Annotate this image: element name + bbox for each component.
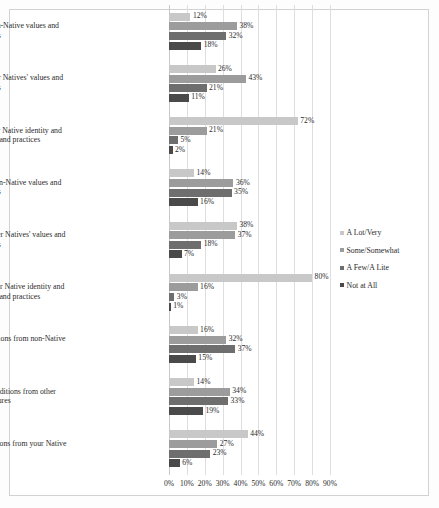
- bar-value-label: 18%: [204, 240, 218, 248]
- bar-2-7: [169, 336, 226, 344]
- bar-value-label: 32%: [229, 335, 243, 343]
- bar-value-label: 12%: [193, 12, 207, 20]
- bar-value-label: 16%: [200, 326, 214, 334]
- x-tick-label: 90%: [323, 479, 337, 489]
- bar-1-2: [169, 65, 216, 73]
- bar-value-label: 19%: [205, 407, 219, 415]
- bar-value-label: 38%: [239, 221, 253, 229]
- bar-value-label: 21%: [209, 84, 223, 92]
- bar-4-5: [169, 250, 182, 258]
- legend-label: Not at All: [347, 281, 378, 290]
- bar-1-7: [169, 326, 198, 334]
- x-tick-label: 30%: [216, 479, 230, 489]
- bar-4-2: [169, 94, 189, 102]
- bar-1-6: [169, 274, 312, 282]
- bar-2-2: [169, 75, 246, 83]
- bar-2-4: [169, 179, 233, 187]
- bar-4-8: [169, 407, 203, 415]
- bar-2-1: [169, 22, 237, 30]
- legend-item-1: A Lot/Very: [340, 228, 432, 237]
- bar-value-label: 36%: [236, 179, 250, 187]
- bar-value-label: 6%: [182, 459, 192, 467]
- plot-area: Family maintenance of non-Native values …: [169, 5, 330, 475]
- bar-4-3: [169, 146, 173, 154]
- bar-value-label: 27%: [220, 440, 234, 448]
- bar-value-label: 72%: [300, 117, 314, 125]
- legend-label: Some/Somewhat: [347, 246, 400, 255]
- category-label: Family maintenance of your Native identi…: [0, 126, 67, 145]
- category-group: Family participation in traditions from …: [169, 318, 330, 370]
- category-group: Family maintenance of your Native identi…: [169, 109, 330, 161]
- bar-4-1: [169, 42, 201, 50]
- category-label: Personal maintenance of other Natives' v…: [0, 230, 67, 249]
- bar-value-label: 18%: [204, 41, 218, 49]
- legend-swatch-icon: [340, 283, 344, 287]
- bar-2-8: [169, 388, 230, 396]
- bar-1-3: [169, 117, 298, 125]
- bar-3-6: [169, 293, 174, 301]
- bar-value-label: 33%: [231, 397, 245, 405]
- bar-2-6: [169, 283, 198, 291]
- bar-3-2: [169, 84, 207, 92]
- x-tick-label: 60%: [269, 479, 283, 489]
- bar-value-label: 2%: [175, 146, 185, 154]
- bar-3-1: [169, 32, 226, 40]
- bar-value-label: 5%: [180, 136, 190, 144]
- bar-3-4: [169, 189, 232, 197]
- bar-4-9: [169, 459, 180, 467]
- legend-item-4: Not at All: [340, 281, 432, 290]
- x-tick-label: 50%: [251, 479, 265, 489]
- bar-3-7: [169, 345, 235, 353]
- bar-value-label: 34%: [232, 387, 246, 395]
- bar-value-label: 23%: [213, 449, 227, 457]
- category-label: Family maintenance of non-Native values …: [0, 21, 67, 40]
- x-tick-label: 20%: [198, 479, 212, 489]
- category-group: Family participation in traditions from …: [169, 423, 330, 475]
- bar-value-label: 14%: [197, 169, 211, 177]
- bar-value-label: 16%: [200, 283, 214, 291]
- bar-4-7: [169, 355, 196, 363]
- category-group: Personal maintenance of your Native iden…: [169, 266, 330, 318]
- bar-value-label: 44%: [250, 430, 264, 438]
- bar-1-4: [169, 169, 194, 177]
- x-tick-label: 80%: [305, 479, 319, 489]
- bar-3-8: [169, 397, 228, 405]
- legend-item-3: A Few/A Lite: [340, 263, 432, 272]
- category-group: Family maintenance of other Natives' val…: [169, 57, 330, 109]
- bar-value-label: 80%: [315, 273, 329, 281]
- category-group: Family maintenance of non-Native values …: [169, 5, 330, 57]
- bar-value-label: 21%: [209, 126, 223, 134]
- x-tick-label: 70%: [287, 479, 301, 489]
- bar-value-label: 16%: [200, 198, 214, 206]
- chart-figure: Family maintenance of non-Native values …: [0, 0, 439, 508]
- legend-swatch-icon: [340, 248, 344, 252]
- bar-value-label: 26%: [218, 65, 232, 73]
- legend-swatch-icon: [340, 266, 344, 270]
- category-group: Personal maintenance of non-Native value…: [169, 162, 330, 214]
- legend-label: A Few/A Lite: [347, 263, 389, 272]
- bar-4-4: [169, 198, 198, 206]
- legend-label: A Lot/Very: [347, 228, 382, 237]
- x-tick-label: 10%: [180, 479, 194, 489]
- category-label: Personal maintenance of non-Native value…: [0, 178, 67, 197]
- bar-2-5: [169, 231, 235, 239]
- bar-3-5: [169, 241, 201, 249]
- x-axis-tick-labels: 0%10%20%30%40%50%60%70%80%90%: [169, 479, 344, 491]
- bar-value-label: 11%: [191, 93, 205, 101]
- gridline-90: [330, 5, 331, 475]
- legend-swatch-icon: [340, 231, 344, 235]
- category-label: Family maintenance of other Natives' val…: [0, 73, 67, 92]
- bar-1-5: [169, 222, 237, 230]
- category-group: Personal maintenance of other Natives' v…: [169, 214, 330, 266]
- bar-1-1: [169, 13, 190, 21]
- category-label: Family participation in traditions from …: [0, 387, 67, 406]
- chart-legend: A Lot/VerySome/SomewhatA Few/A LiteNot a…: [340, 228, 432, 298]
- x-tick-label: 40%: [234, 479, 248, 489]
- bar-value-label: 15%: [198, 354, 212, 362]
- bar-4-6: [169, 303, 171, 311]
- category-label: Family participation in traditions from …: [0, 334, 67, 353]
- bar-value-label: 32%: [229, 32, 243, 40]
- bar-value-label: 1%: [173, 302, 183, 310]
- bar-value-label: 37%: [238, 231, 252, 239]
- x-tick-label: 0%: [164, 479, 174, 489]
